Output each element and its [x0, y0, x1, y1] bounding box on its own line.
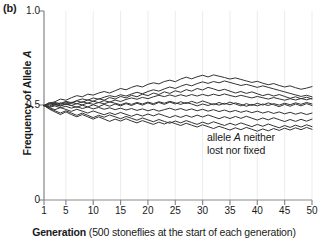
x-tick-label: 20 — [136, 206, 160, 216]
x-axis-caption: Generation (500 stoneflies at the start … — [0, 226, 328, 238]
x-tick-label: 35 — [218, 206, 242, 216]
x-axis-caption-rest: (500 stoneflies at the start of each gen… — [86, 226, 296, 238]
annotation-allele: A — [234, 131, 241, 143]
annotation-line-2: lost nor fixed — [207, 144, 275, 157]
annotation-line-1: allele A neither — [207, 131, 275, 144]
x-tick-label: 10 — [81, 206, 105, 216]
x-tick-label: 15 — [109, 206, 133, 216]
x-tick-label: 45 — [273, 206, 297, 216]
x-tick-label: 1 — [32, 206, 56, 216]
annotation-line1-prefix: allele — [207, 131, 234, 143]
x-axis-caption-bold: Generation — [32, 226, 86, 238]
x-tick-label: 30 — [191, 206, 215, 216]
figure-panel-b: (b) Frequency of Allele A 1.0 0.5 0 1510… — [0, 0, 328, 244]
x-tick-label: 5 — [54, 206, 78, 216]
x-tick-label: 50 — [300, 206, 324, 216]
x-axis-tick-labels: 15101520253035404550 — [0, 0, 328, 244]
x-tick-label: 25 — [163, 206, 187, 216]
chart-annotation: allele A neither lost nor fixed — [207, 131, 275, 156]
annotation-line1-suffix: neither — [241, 131, 275, 143]
x-tick-label: 40 — [245, 206, 269, 216]
